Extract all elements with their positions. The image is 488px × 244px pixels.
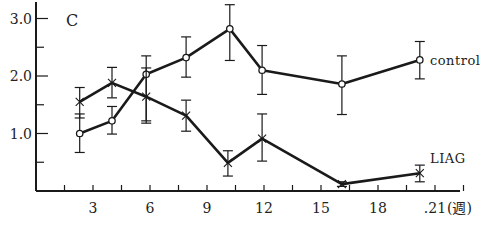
series-line bbox=[80, 29, 420, 134]
series-label-control: control bbox=[430, 53, 480, 68]
axes: 1.02.03.0369121518.21(週) bbox=[10, 2, 472, 216]
series-control bbox=[75, 5, 425, 153]
y-tick-label: 3.0 bbox=[10, 11, 32, 27]
x-tick-label: 18 bbox=[369, 200, 387, 216]
x-tick-label: 9 bbox=[203, 200, 212, 216]
x-tick-label: .21 bbox=[424, 200, 446, 216]
circle-marker bbox=[77, 130, 83, 136]
circle-marker bbox=[109, 118, 115, 124]
y-tick-label: 2.0 bbox=[10, 68, 32, 84]
line-chart: 1.02.03.0369121518.21(週) C control LIAG bbox=[0, 0, 488, 244]
x-axis-unit-label: (週) bbox=[447, 200, 472, 216]
circle-marker bbox=[183, 54, 189, 60]
series-liag bbox=[75, 67, 425, 188]
series-layer bbox=[75, 5, 425, 188]
circle-marker bbox=[259, 67, 265, 73]
circle-marker bbox=[339, 81, 345, 87]
y-tick-label: 1.0 bbox=[10, 126, 32, 142]
circle-marker bbox=[227, 26, 233, 32]
series-label-liag: LIAG bbox=[430, 151, 466, 166]
x-tick-label: 12 bbox=[255, 200, 273, 216]
series-line bbox=[80, 83, 420, 184]
x-tick-label: 15 bbox=[312, 200, 330, 216]
x-tick-label: 6 bbox=[146, 200, 155, 216]
panel-label: C bbox=[66, 11, 78, 30]
circle-marker bbox=[417, 57, 423, 63]
x-tick-label: 3 bbox=[89, 200, 98, 216]
